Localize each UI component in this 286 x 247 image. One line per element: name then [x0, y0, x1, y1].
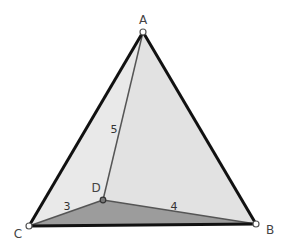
label-c: C [14, 227, 22, 241]
label-a: A [139, 13, 148, 27]
length-cd: 3 [64, 200, 71, 213]
length-ad: 5 [111, 123, 118, 136]
label-d: D [91, 181, 100, 195]
vertex-d [100, 197, 106, 203]
length-bd: 4 [171, 200, 178, 213]
edge-cb [29, 224, 256, 226]
vertex-a [140, 29, 146, 35]
vertex-c [26, 223, 32, 229]
vertex-b [253, 221, 259, 227]
tetrahedron-diagram: A B C D 5 3 4 [0, 0, 286, 247]
label-b: B [266, 223, 274, 237]
